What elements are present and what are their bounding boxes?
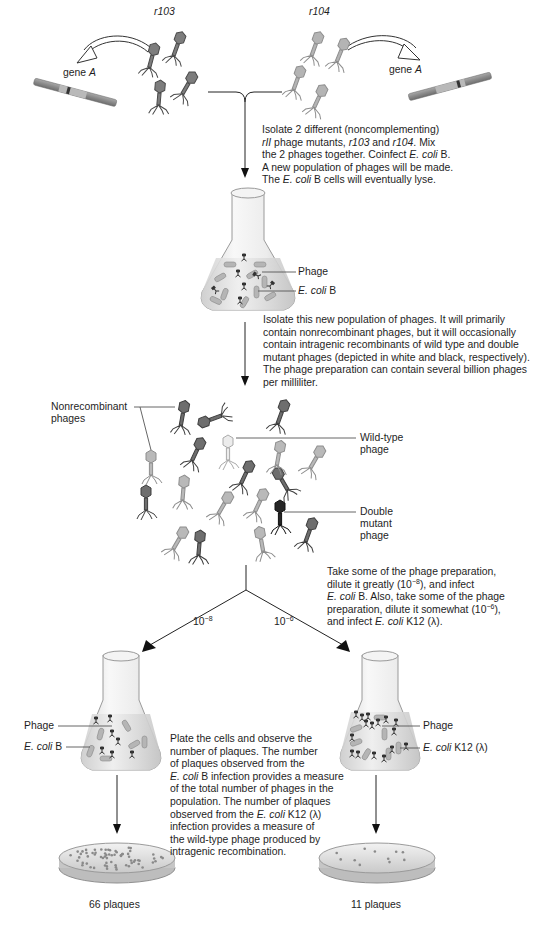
gene-letter: A	[415, 64, 422, 75]
label-r104: r104	[309, 6, 330, 18]
flask-ecoli-b-coinfection	[201, 188, 295, 310]
arrow-to-population	[241, 322, 249, 386]
wildtype-label: Wild-type phage	[360, 432, 403, 456]
label-gene-a-right: gene A	[389, 64, 422, 76]
dilution-right-label: 10−6	[274, 616, 294, 628]
step3-caption: Take some of the phage preparation, dilu…	[327, 566, 505, 629]
flask-ecoli-b	[81, 651, 161, 770]
flask1-phage-label: Phage	[298, 266, 328, 278]
step4-caption: Plate the cells and observe the number o…	[170, 733, 344, 859]
curved-arrow-left-icon	[77, 36, 150, 63]
dilution-left-label: 10−8	[193, 616, 213, 628]
flask1-ecoli-label: E. coli B	[298, 285, 336, 297]
split-connector	[142, 565, 350, 652]
double-mutant-label: Double mutant phage	[360, 506, 393, 542]
step1-caption: Isolate 2 different (noncomplementing) r…	[262, 124, 453, 187]
r103-phage-group	[138, 29, 205, 116]
r104-phage-group	[282, 29, 357, 121]
plaque-count-right: 11 plaques	[351, 899, 401, 911]
label-gene-a-left: gene A	[63, 67, 96, 79]
curved-arrow-right-icon	[348, 36, 420, 60]
petri-plate-left	[59, 843, 175, 883]
gene-word: gene	[389, 64, 412, 75]
nonrecombinant-label: Nonrecombinant phages	[51, 401, 127, 425]
flask-left-ecoli-label: E. coli B	[24, 741, 62, 753]
label-r103: r103	[154, 6, 175, 18]
flask-right-phage-label: Phage	[423, 720, 453, 732]
gene-letter: A	[89, 67, 96, 78]
flask-ecoli-k12-lambda	[340, 651, 420, 770]
flask-right-ecoli-label: E. coli K12 (λ)	[423, 742, 488, 754]
gene-word: gene	[63, 67, 86, 78]
step2-caption: Isolate this new population of phages. I…	[263, 314, 530, 390]
dna-segment-left	[33, 78, 117, 107]
dna-segment-right	[408, 72, 492, 101]
phage-population	[134, 397, 356, 566]
flask-left-phage-label: Phage	[24, 720, 54, 732]
plaque-count-left: 66 plaques	[89, 899, 140, 911]
